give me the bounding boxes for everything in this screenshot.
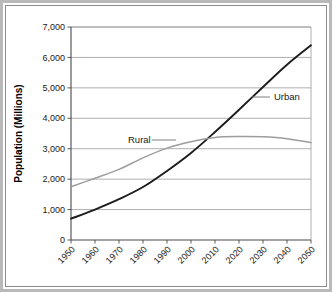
x-tick-label: 2010 [200, 244, 221, 265]
x-tick-label: 1970 [104, 244, 125, 265]
x-tick-label: 2000 [176, 244, 197, 265]
gridlines [71, 27, 311, 240]
y-tick-label: 6,000 [42, 53, 65, 63]
population-line-chart: 01,0002,0003,0004,0005,0006,0007,000 195… [0, 0, 332, 292]
y-tick-label: 0 [60, 235, 65, 245]
x-tick-label: 2020 [224, 244, 245, 265]
series-label-urban: Urban [274, 91, 300, 102]
y-tick-label: 7,000 [42, 22, 65, 32]
y-tick-label: 5,000 [42, 83, 65, 93]
series-line-urban [71, 45, 311, 218]
chart-figure: 01,0002,0003,0004,0005,0006,0007,000 195… [0, 0, 332, 292]
x-tick-label: 1950 [56, 244, 77, 265]
y-tick-label: 3,000 [42, 144, 65, 154]
y-axis-title-group: Population (Millions) [13, 84, 24, 182]
y-axis-title: Population (Millions) [13, 84, 24, 182]
y-tick-label: 1,000 [42, 205, 65, 215]
x-tick-label: 1990 [152, 244, 173, 265]
series-lines [71, 45, 311, 218]
series-label-rural: Rural [128, 134, 151, 145]
x-tick-label: 2050 [296, 244, 317, 265]
y-tick-label: 4,000 [42, 113, 65, 123]
x-tick-label: 1960 [80, 244, 101, 265]
x-tick-label: 2040 [272, 244, 293, 265]
y-tick-labels: 01,0002,0003,0004,0005,0006,0007,000 [42, 22, 65, 245]
y-tick-label: 2,000 [42, 174, 65, 184]
x-tick-label: 1980 [128, 244, 149, 265]
x-tick-label: 2030 [248, 244, 269, 265]
axes [68, 27, 312, 244]
x-tick-labels: 1950196019701980199020002010202020302040… [56, 244, 317, 265]
